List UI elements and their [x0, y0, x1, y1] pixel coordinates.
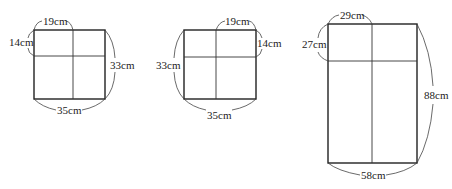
figure-2-top-label: 19cm [225, 15, 250, 27]
figure-3-left-arc-bottom [318, 52, 328, 61]
figure-2-right-arc-bottom [256, 49, 262, 57]
figure-2: 19cm 14cm 33cm 35cm [156, 15, 282, 121]
figure-1-right-label: 33cm [110, 59, 135, 71]
figure-3-right-label: 88cm [424, 89, 449, 101]
figure-1: 19cm 14cm 33cm 35cm [9, 15, 135, 116]
figure-1-outline [34, 30, 105, 99]
figure-1-left-arc-bottom [28, 48, 34, 56]
figure-2-top-arc-left [216, 21, 225, 30]
figure-3-bottom-arc-right [386, 163, 417, 175]
figure-1-top-arc-left [34, 21, 42, 30]
figure-1-bottom-label: 35cm [57, 104, 82, 116]
figure-2-top-arc-right [249, 21, 256, 30]
figure-3-bottom-label: 58cm [361, 169, 386, 181]
figure-1-right-arc-top [105, 30, 115, 58]
figure-1-bottom-arc-right [82, 99, 105, 110]
figure-3-outline [328, 24, 417, 163]
figure-3-left-label: 27cm [302, 38, 327, 50]
figure-3-bottom-arc-left [328, 163, 360, 175]
figure-3: 29cm 27cm 88cm 58cm [302, 9, 449, 181]
figure-2-right-label: 14cm [257, 37, 282, 49]
figure-3-right-arc-top [417, 24, 433, 86]
figure-2-left-arc-top [174, 30, 184, 58]
figure-1-bottom-arc-left [34, 99, 56, 110]
figure-2-bottom-label: 35cm [207, 109, 232, 121]
figure-1-left-label: 14cm [9, 36, 34, 48]
figure-2-left-arc-bottom [174, 72, 184, 99]
figure-1-top-label: 19cm [43, 15, 68, 27]
figure-1-right-arc-bottom [105, 72, 115, 99]
figure-3-top-arc-left [328, 15, 339, 24]
figure-2-bottom-arc-right [232, 99, 256, 110]
figure-2-left-label: 33cm [156, 59, 181, 71]
figure-2-outline [184, 30, 256, 99]
figure-3-left-arc-top [318, 24, 328, 38]
figure-2-bottom-arc-left [184, 99, 206, 110]
diagram-svg: 19cm 14cm 33cm 35cm 19cm 14c [0, 0, 452, 189]
figure-3-right-arc-bottom [417, 104, 433, 163]
diagram-canvas: 19cm 14cm 33cm 35cm 19cm 14c [0, 0, 452, 189]
figure-3-top-label: 29cm [340, 9, 365, 21]
